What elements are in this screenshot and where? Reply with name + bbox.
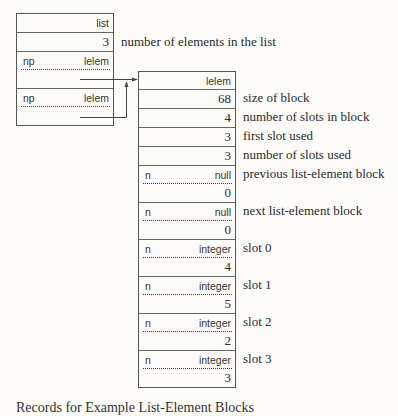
field-slots-used-value: 3 xyxy=(225,147,232,165)
pair-kind: n xyxy=(145,314,151,332)
pair-type: integer xyxy=(199,240,231,258)
note-slot-1: slot 1 xyxy=(243,277,272,293)
pair-value: 5 xyxy=(225,295,232,313)
note-next-block: next list-element block xyxy=(243,203,362,219)
field-size-row: 68 xyxy=(139,90,235,109)
note-previous-block: previous list-element block xyxy=(243,166,385,182)
note-first-slot-used: first slot used xyxy=(243,128,313,144)
pair-value: 0 xyxy=(225,184,232,202)
slot-2-pair: n integer 2 xyxy=(139,314,235,351)
field-slots-used-row: 3 xyxy=(139,147,235,166)
field-slots-row: 4 xyxy=(139,109,235,128)
pair-value: 2 xyxy=(225,332,232,350)
pair-type: integer xyxy=(199,314,231,332)
note-size-of-block: size of block xyxy=(243,90,309,106)
dotted-divider xyxy=(143,220,232,221)
figure-caption: Records for Example List-Element Blocks xyxy=(16,400,254,416)
field-size-value: 68 xyxy=(218,90,231,108)
dotted-divider xyxy=(143,183,232,184)
pair-kind: n xyxy=(145,240,151,258)
note-slot-3: slot 3 xyxy=(243,351,272,367)
slot-1-pair: n integer 5 xyxy=(139,277,235,314)
lelem-header-row: lelem xyxy=(139,72,235,90)
note-slots-used: number of slots used xyxy=(243,147,351,163)
dotted-divider xyxy=(143,294,232,295)
field-slots-value: 4 xyxy=(225,109,232,127)
pair-type: null xyxy=(215,203,231,221)
pair-kind: n xyxy=(145,203,151,221)
field-first-slot-row: 3 xyxy=(139,128,235,147)
pair-value: 4 xyxy=(225,258,232,276)
note-slots-in-block: number of slots in block xyxy=(243,109,369,125)
pair-kind: n xyxy=(145,351,151,369)
pair-value: 3 xyxy=(225,369,232,387)
slot-3-pair: n integer 3 xyxy=(139,351,235,388)
dotted-divider xyxy=(143,257,232,258)
pair-value: 0 xyxy=(225,221,232,239)
note-slot-2: slot 2 xyxy=(243,314,272,330)
dotted-divider xyxy=(143,331,232,332)
list-element-block: lelem 68 4 3 3 n null 0 n null 0 n integ… xyxy=(138,71,236,388)
prev-block-pair: n null 0 xyxy=(139,166,235,203)
pair-type: integer xyxy=(199,277,231,295)
pair-type: null xyxy=(215,166,231,184)
slot-0-pair: n integer 4 xyxy=(139,240,235,277)
lelem-header-label: lelem xyxy=(206,72,231,90)
pair-kind: n xyxy=(145,166,151,184)
field-first-slot-value: 3 xyxy=(225,128,232,146)
pair-kind: n xyxy=(145,277,151,295)
arrowhead-up-icon xyxy=(125,81,129,87)
note-slot-0: slot 0 xyxy=(243,240,272,256)
dotted-divider xyxy=(143,368,232,369)
pair-type: integer xyxy=(199,351,231,369)
next-block-pair: n null 0 xyxy=(139,203,235,240)
